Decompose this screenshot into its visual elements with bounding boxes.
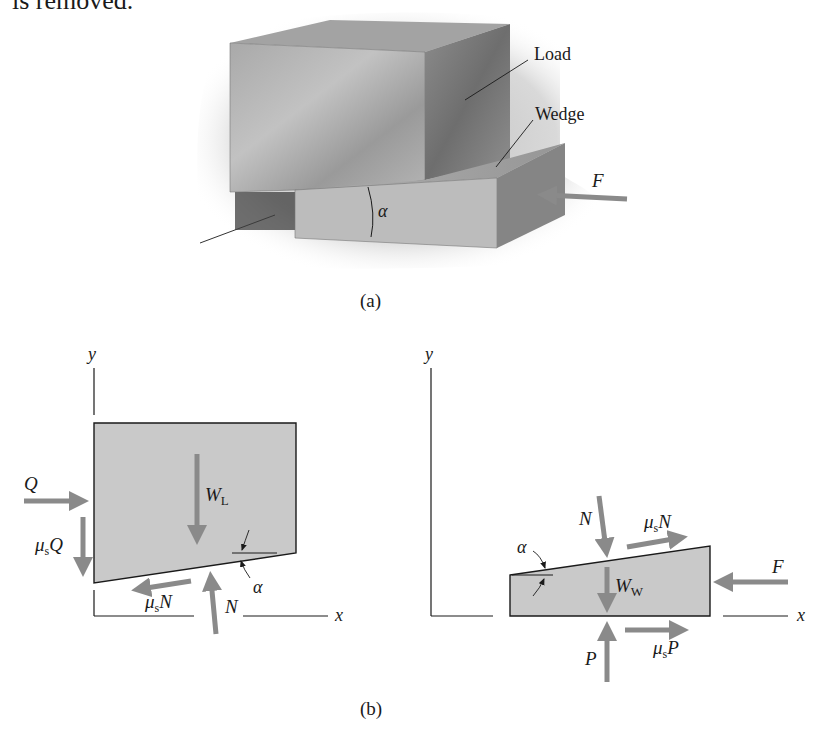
- friction-mun-arrow: [627, 538, 679, 547]
- wedge-body: [510, 546, 710, 616]
- part-a-illustration: α Load Wedge F: [197, 13, 627, 269]
- load-block-front: [230, 43, 425, 192]
- caption-a: (a): [360, 290, 381, 312]
- force-f-label: F: [771, 556, 784, 577]
- normal-n-arrow: [599, 496, 606, 549]
- friction-muq-label: μsQ: [34, 534, 63, 558]
- alpha-label-right: α: [517, 537, 527, 557]
- wedge-free-body-diagram: y x N μsN WW F P μsP α: [423, 344, 805, 682]
- caption-b: (b): [360, 698, 382, 720]
- normal-n-label: N: [578, 508, 593, 529]
- friction-mup-label: μsP: [652, 637, 679, 661]
- load-free-body-diagram: y x WL Q μsQ μsN N α: [24, 344, 343, 634]
- y-axis-label: y: [423, 344, 433, 364]
- friction-mun-arrow: [140, 581, 191, 589]
- x-axis-label: x: [796, 605, 805, 625]
- wedge-label: Wedge: [535, 104, 585, 124]
- friction-mun-label: μsN: [643, 511, 672, 535]
- friction-mun-label: μsN: [144, 591, 173, 615]
- alpha-arrow-upper: [533, 551, 545, 568]
- load-label: Load: [534, 44, 571, 64]
- x-axis-label: x: [334, 605, 343, 625]
- alpha-arrow-lower: [241, 561, 250, 578]
- alpha-label-a: α: [378, 201, 388, 221]
- force-f-label-a: F: [591, 170, 604, 191]
- alpha-label-left: α: [253, 577, 263, 597]
- force-q-label: Q: [24, 473, 38, 494]
- normal-n-label: N: [224, 596, 239, 617]
- normal-p-label: P: [584, 648, 597, 669]
- y-axis-label: y: [86, 344, 96, 364]
- wedge-figure: α Load Wedge F (a) y x WL Q μsQ μsN: [0, 0, 816, 730]
- normal-n-arrow: [211, 580, 216, 634]
- wedge-front: [295, 178, 497, 248]
